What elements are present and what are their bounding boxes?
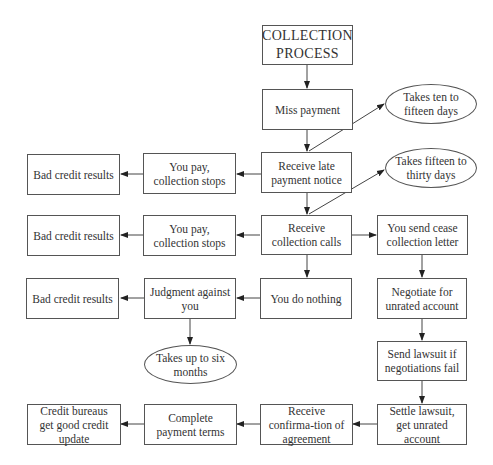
node-good-credit: Credit bureaus get good credit update xyxy=(27,404,121,445)
node-miss-payment: Miss payment xyxy=(262,89,353,130)
node-you-pay-stops-1: You pay, collection stops xyxy=(143,153,236,194)
node-send-lawsuit: Send lawsuit if negotiations fail xyxy=(377,341,467,381)
node-confirmation: Receive confirma-tion of agreement xyxy=(260,404,353,445)
node-complete-terms: Complete payment terms xyxy=(144,404,237,445)
note-up-to-six-months: Takes up to six months xyxy=(144,345,237,384)
node-judgment: Judgment against you xyxy=(144,278,236,319)
node-late-notice: Receive late payment notice xyxy=(261,152,352,193)
title-box: COLLECTION PROCESS xyxy=(262,25,353,65)
node-negotiate: Negotiate for unrated account xyxy=(377,278,467,319)
node-you-do-nothing: You do nothing xyxy=(260,278,352,319)
node-bad-credit-3: Bad credit results xyxy=(26,278,119,319)
note-fifteen-to-thirty-days: Takes fifteen to thirty days xyxy=(385,148,477,188)
note-ten-to-fifteen-days: Takes ten to fifteen days xyxy=(385,84,477,124)
node-cease-letter: You send cease collection letter xyxy=(377,215,468,255)
node-bad-credit-2: Bad credit results xyxy=(27,215,120,256)
node-settle-lawsuit: Settle lawsuit, get unrated account xyxy=(377,404,467,445)
node-collection-calls: Receive collection calls xyxy=(261,215,352,255)
node-you-pay-stops-2: You pay, collection stops xyxy=(143,215,236,256)
node-bad-credit-1: Bad credit results xyxy=(27,154,120,195)
